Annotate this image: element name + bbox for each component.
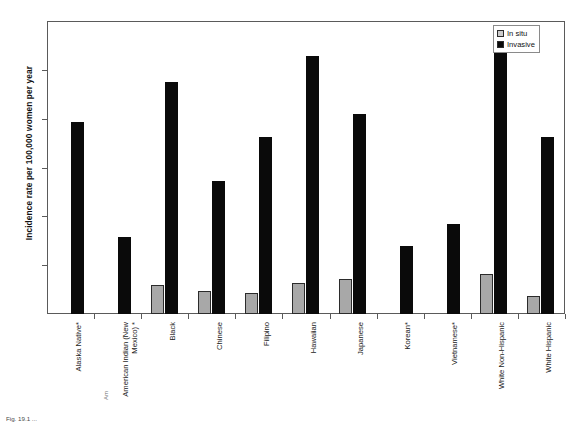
x-tick-mark bbox=[330, 314, 331, 319]
legend-label: Invasive bbox=[507, 41, 535, 49]
bar-series-container bbox=[47, 21, 565, 314]
bar-group bbox=[47, 21, 565, 314]
x-axis-label: Chinese bbox=[216, 322, 225, 412]
bar-in-situ[interactable] bbox=[527, 296, 540, 314]
legend-item[interactable]: In situ bbox=[497, 28, 535, 39]
x-axis-label: Filipino bbox=[263, 322, 272, 412]
legend-swatch-invasive-icon bbox=[497, 41, 504, 48]
y-axis-title: Incidence rate per 100,000 women per yea… bbox=[24, 28, 34, 278]
x-axis-label: White Hispanic bbox=[545, 322, 554, 412]
legend: In situInvasive bbox=[493, 25, 540, 53]
figure: Incidence rate per 100,000 women per yea… bbox=[0, 0, 575, 426]
x-tick-mark bbox=[235, 314, 236, 319]
x-tick-mark bbox=[94, 314, 95, 319]
x-tick-mark bbox=[565, 314, 566, 319]
x-axis-label: Black bbox=[169, 322, 178, 412]
bar-invasive[interactable] bbox=[541, 137, 554, 314]
x-axis-label: Japanese bbox=[357, 322, 366, 412]
figure-caption: Fig. 19.1 ... bbox=[6, 415, 566, 426]
legend-label: In situ bbox=[507, 30, 527, 38]
x-tick-mark bbox=[188, 314, 189, 319]
caption-cut-marker: Am bbox=[103, 391, 109, 400]
x-tick-mark bbox=[518, 314, 519, 319]
legend-item[interactable]: Invasive bbox=[497, 39, 535, 50]
legend-swatch-insitu-icon bbox=[497, 30, 504, 37]
x-axis-label: White Non-Hispanic bbox=[498, 322, 507, 412]
x-tick-mark bbox=[377, 314, 378, 319]
x-axis-label: American Indian (New Mexico) * bbox=[122, 322, 139, 412]
x-axis-label: Vietnamese* bbox=[451, 322, 460, 412]
x-tick-mark bbox=[282, 314, 283, 319]
x-axis-label: Alaska Native* bbox=[75, 322, 84, 412]
x-axis-label: Korean* bbox=[404, 322, 413, 412]
x-tick-mark bbox=[471, 314, 472, 319]
x-tick-mark bbox=[141, 314, 142, 319]
x-axis-label: Hawaiian bbox=[310, 322, 319, 412]
x-tick-mark bbox=[424, 314, 425, 319]
